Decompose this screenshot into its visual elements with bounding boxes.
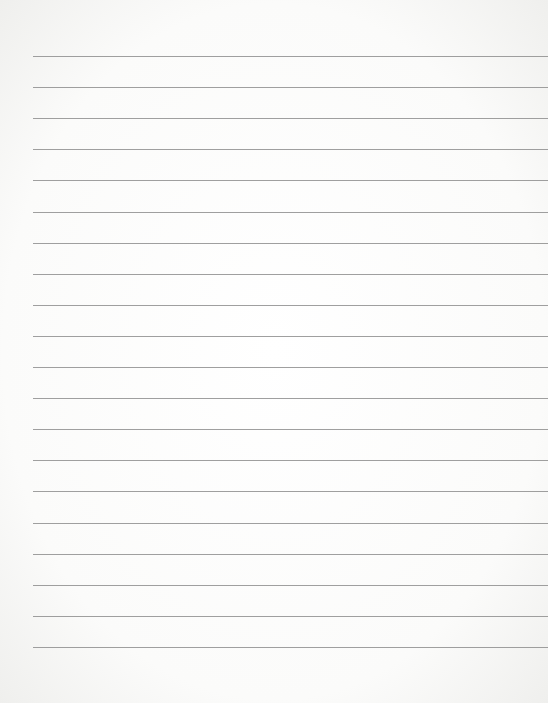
ruled-line — [33, 243, 548, 244]
ruled-line — [33, 367, 548, 368]
ruled-line — [33, 305, 548, 306]
ruled-line — [33, 429, 548, 430]
lined-paper — [0, 0, 548, 703]
ruled-line — [33, 336, 548, 337]
ruled-line — [33, 460, 548, 461]
ruled-line — [33, 616, 548, 617]
ruled-line — [33, 56, 548, 57]
ruled-line — [33, 585, 548, 586]
ruled-line — [33, 647, 548, 648]
ruled-line — [33, 491, 548, 492]
ruled-line — [33, 149, 548, 150]
ruled-line — [33, 554, 548, 555]
ruled-line — [33, 274, 548, 275]
ruled-line — [33, 180, 548, 181]
ruled-line — [33, 398, 548, 399]
ruled-line — [33, 87, 548, 88]
ruled-line — [33, 212, 548, 213]
ruled-line — [33, 118, 548, 119]
ruled-line — [33, 523, 548, 524]
